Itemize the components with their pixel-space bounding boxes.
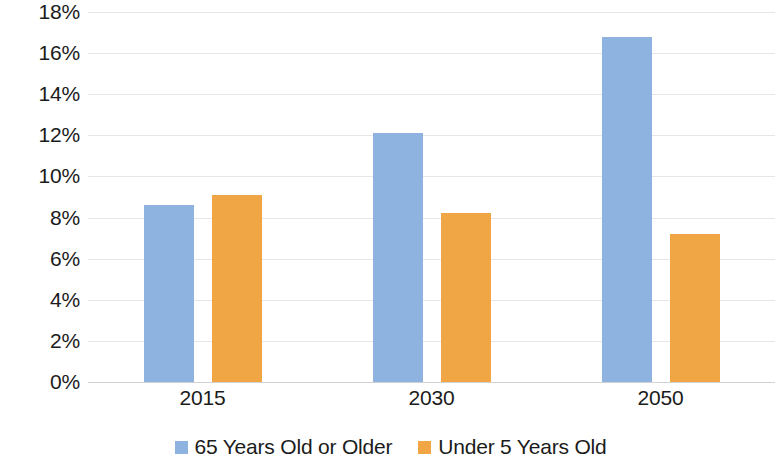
bar[interactable] xyxy=(144,205,194,382)
legend-label: 65 Years Old or Older xyxy=(195,436,393,458)
y-tick-label: 16% xyxy=(0,42,80,63)
bar-group xyxy=(144,12,262,382)
bar[interactable] xyxy=(441,213,491,382)
chart-legend: 65 Years Old or OlderUnder 5 Years Old xyxy=(0,434,781,460)
y-tick-label: 10% xyxy=(0,165,80,186)
bar-group xyxy=(373,12,491,382)
x-axis: 201520302050 xyxy=(88,386,775,416)
bar-group xyxy=(602,12,720,382)
bar-chart: 0%2%4%6%8%10%12%14%16%18% 201520302050 6… xyxy=(0,0,781,460)
x-tick-label: 2050 xyxy=(638,386,684,410)
y-tick-label: 2% xyxy=(0,330,80,351)
y-tick-label: 6% xyxy=(0,248,80,269)
x-tick-label: 2030 xyxy=(409,386,455,410)
legend-swatch-icon xyxy=(175,441,188,454)
y-axis: 0%2%4%6%8%10%12%14%16%18% xyxy=(0,12,80,382)
y-tick-label: 4% xyxy=(0,289,80,310)
y-tick-label: 12% xyxy=(0,124,80,145)
axis-baseline xyxy=(88,382,775,383)
bar[interactable] xyxy=(670,234,720,382)
y-tick-label: 18% xyxy=(0,1,80,22)
x-tick-label: 2015 xyxy=(180,386,226,410)
legend-item[interactable]: 65 Years Old or Older xyxy=(175,436,393,458)
y-tick-label: 8% xyxy=(0,207,80,228)
bar[interactable] xyxy=(212,195,262,382)
bar[interactable] xyxy=(602,37,652,382)
bar[interactable] xyxy=(373,133,423,382)
legend-item[interactable]: Under 5 Years Old xyxy=(418,436,606,458)
legend-swatch-icon xyxy=(418,441,431,454)
legend-label: Under 5 Years Old xyxy=(438,436,606,458)
y-tick-label: 0% xyxy=(0,371,80,392)
plot-area xyxy=(88,12,775,382)
y-tick-label: 14% xyxy=(0,83,80,104)
